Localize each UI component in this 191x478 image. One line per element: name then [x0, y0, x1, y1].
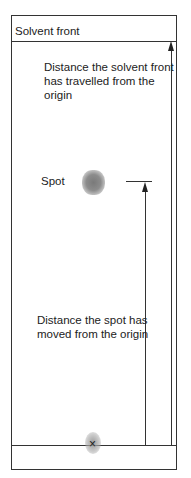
spot-level-line [126, 181, 152, 182]
spot [82, 170, 105, 195]
spot-distance-label-line2: moved from the origin [37, 327, 148, 341]
solvent-front-label: Solvent front [15, 24, 80, 38]
solvent-front-line [11, 41, 177, 42]
spot-distance-arrowhead-icon [142, 182, 148, 192]
solvent-distance-label-line1: Distance the solvent front [44, 60, 174, 74]
spot-distance-label: Distance the spot has moved from the ori… [37, 313, 148, 341]
solvent-distance-label-line3: origin [44, 88, 174, 102]
solvent-distance-label-line2: has travelled from the [44, 74, 174, 88]
origin-x-icon: × [89, 438, 96, 450]
spot-distance-label-line1: Distance the spot has [37, 313, 148, 327]
solvent-distance-arrow-shaft [171, 46, 172, 445]
spot-label: Spot [41, 174, 65, 188]
solvent-distance-label: Distance the solvent front has travelled… [44, 60, 174, 102]
solvent-distance-arrowhead-icon [168, 41, 174, 51]
